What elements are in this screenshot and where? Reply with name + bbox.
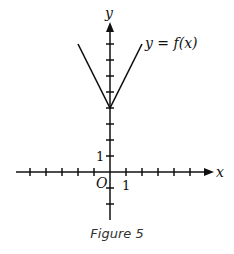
figure-caption: Figure 5 xyxy=(0,226,234,241)
x-axis-label: x xyxy=(216,164,224,180)
x-tick-label: 1 xyxy=(122,178,130,193)
x-arrow-icon xyxy=(204,168,214,176)
origin-label: O xyxy=(96,175,108,191)
figure: x y O y = f(x) 1 1 Figure 5 xyxy=(0,0,234,254)
y-tick-label: 1 xyxy=(96,149,104,164)
y-axis-label: y xyxy=(104,5,114,21)
y-arrow-icon xyxy=(106,22,114,32)
curve-label: y = f(x) xyxy=(144,35,198,51)
plot: x y O y = f(x) 1 1 xyxy=(0,0,234,254)
